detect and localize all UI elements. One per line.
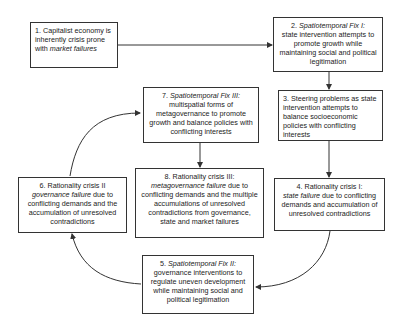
box-5-spatiotemporal-fix-2: 5. Spatiotemporal Fix II: governance int… — [142, 255, 254, 314]
box-italic-term: metagovernance failure — [151, 181, 226, 190]
box-number: 8. — [165, 172, 171, 181]
box-italic-term: state failure — [283, 191, 320, 200]
edge-6-7 — [70, 113, 140, 176]
box-italic-term: market failures — [50, 44, 97, 53]
box-number: 5. — [160, 259, 166, 268]
box-number: 3. — [283, 94, 289, 103]
box-text: Rationality crisis I: — [305, 182, 363, 191]
box-number: 2. — [291, 21, 297, 30]
box-1-capitalist-economy: 1. Capitalist economy is inherently cris… — [30, 22, 118, 68]
box-6-rationality-crisis-2: 6. Rationality crisis II governance fail… — [18, 177, 127, 233]
box-2-spatiotemporal-fix-1: 2. Spatiotemporal Fix I: state intervent… — [273, 17, 383, 72]
box-text: Rationality crisis III: — [173, 172, 235, 181]
box-number: 1. — [35, 26, 41, 35]
box-italic-term: Spatiotemporal Fix III: — [170, 91, 240, 100]
box-number: 7. — [162, 91, 168, 100]
box-8-rationality-crisis-3: 8. Rationality crisis III: metagovernanc… — [135, 168, 264, 238]
box-text: multispatial forms of metagovernance to … — [149, 100, 252, 136]
box-7-spatiotemporal-fix-3: 7. Spatiotemporal Fix III: multispatial … — [143, 87, 259, 143]
box-italic-term: governance failure — [32, 190, 91, 199]
box-number: 6. — [40, 181, 46, 190]
edge-4-5 — [256, 231, 330, 287]
box-italic-term: Spatiotemporal Fix I: — [299, 21, 365, 30]
box-3-steering-problems: 3. Steering problems as state interventi… — [278, 90, 383, 141]
box-number: 4. — [297, 182, 303, 191]
edge-5-6 — [72, 234, 141, 284]
box-text: state intervention attempts to promote g… — [279, 30, 376, 66]
box-text: Rationality crisis II — [48, 181, 106, 190]
box-italic-term: Spatiotemporal Fix II: — [168, 259, 236, 268]
box-text: Steering problems as state intervention … — [283, 94, 377, 139]
box-text: governance interventions to regulate une… — [151, 268, 246, 304]
box-4-rationality-crisis-1: 4. Rationality crisis I: state failure d… — [274, 178, 385, 231]
